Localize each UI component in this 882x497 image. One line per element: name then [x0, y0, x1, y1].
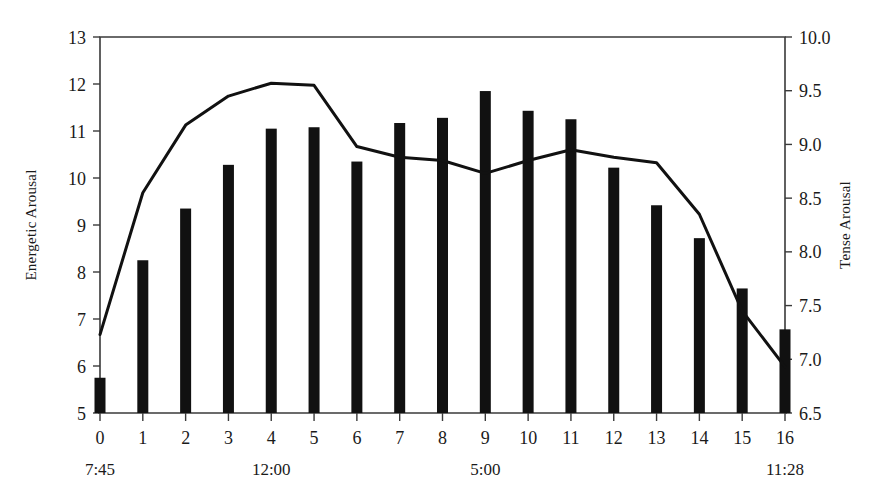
x-tick-label: 1 [138, 428, 147, 448]
x-tick-label: 6 [352, 428, 361, 448]
x-tick-label: 7 [395, 428, 404, 448]
x-tick-label: 16 [776, 428, 794, 448]
bar [480, 91, 491, 413]
bar [309, 127, 320, 413]
bar [608, 168, 619, 413]
right-axis-ticks: 6.57.07.58.08.59.09.510.0 [785, 28, 831, 424]
bar [780, 329, 791, 413]
bar [651, 205, 662, 413]
bar [565, 119, 576, 413]
bar [180, 209, 191, 413]
bar [351, 162, 362, 413]
right-axis-title: Tense Arousal [837, 181, 853, 269]
x-tick-label: 10 [519, 428, 537, 448]
x-tick-label: 4 [267, 428, 276, 448]
bar [694, 238, 705, 413]
x-tick-label: 5 [310, 428, 319, 448]
left-tick-label: 8 [77, 263, 86, 283]
right-tick-label: 7.0 [799, 350, 822, 370]
bar [137, 260, 148, 413]
left-axis-title: Energetic Arousal [23, 169, 39, 280]
bar [394, 123, 405, 413]
dual-axis-chart: 5678910111213 6.57.07.58.08.59.09.510.0 … [0, 0, 882, 497]
left-tick-label: 11 [69, 122, 86, 142]
right-tick-label: 9.5 [799, 81, 822, 101]
left-tick-label: 9 [77, 216, 86, 236]
right-tick-label: 10.0 [799, 28, 831, 48]
left-tick-label: 6 [77, 357, 86, 377]
bar-series-energetic-arousal [95, 91, 791, 413]
x-axis-ticks: 012345678910111213141516 [96, 413, 795, 448]
x-tick-label: 2 [181, 428, 190, 448]
x-time-label: 12:00 [252, 460, 291, 479]
x-time-label: 11:28 [766, 460, 804, 479]
x-tick-label: 15 [733, 428, 751, 448]
left-axis-ticks: 5678910111213 [68, 28, 100, 424]
left-tick-label: 13 [68, 28, 86, 48]
right-tick-label: 7.5 [799, 296, 822, 316]
right-tick-label: 8.5 [799, 189, 822, 209]
x-axis-time-labels: 7:4512:005:0011:28 [85, 460, 804, 479]
bar [266, 129, 277, 413]
x-tick-label: 12 [605, 428, 623, 448]
bar [523, 111, 534, 413]
x-tick-label: 14 [690, 428, 708, 448]
x-tick-label: 0 [96, 428, 105, 448]
left-tick-label: 5 [77, 404, 86, 424]
x-tick-label: 11 [562, 428, 579, 448]
x-tick-label: 13 [648, 428, 666, 448]
x-tick-label: 8 [438, 428, 447, 448]
bar [737, 288, 748, 413]
left-tick-label: 10 [68, 169, 86, 189]
bar [95, 378, 106, 413]
left-tick-label: 12 [68, 75, 86, 95]
x-time-label: 5:00 [470, 460, 500, 479]
bar [223, 165, 234, 413]
x-tick-label: 3 [224, 428, 233, 448]
right-tick-label: 9.0 [799, 135, 822, 155]
x-tick-label: 9 [481, 428, 490, 448]
chart-figure: 5678910111213 6.57.07.58.08.59.09.510.0 … [0, 0, 882, 497]
x-time-label: 7:45 [85, 460, 115, 479]
right-tick-label: 6.5 [799, 404, 822, 424]
right-tick-label: 8.0 [799, 242, 822, 262]
left-tick-label: 7 [77, 310, 86, 330]
